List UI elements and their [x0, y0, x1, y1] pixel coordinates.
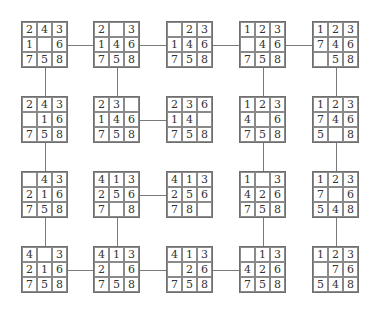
- tile: 5: [182, 277, 197, 292]
- tile: 1: [37, 262, 52, 277]
- tile: 8: [124, 127, 139, 142]
- tile: 3: [182, 97, 197, 112]
- tile: 8: [270, 202, 285, 217]
- blank-tile: [37, 247, 52, 262]
- tile: 7: [22, 277, 37, 292]
- tile: 5: [182, 52, 197, 67]
- tile: 8: [52, 52, 67, 67]
- tile: 6: [52, 112, 67, 127]
- tile: 3: [270, 97, 285, 112]
- tile: 2: [22, 262, 37, 277]
- edge-connector: [140, 45, 166, 46]
- tile: 6: [270, 37, 285, 52]
- tile: 1: [22, 37, 37, 52]
- tile: 4: [240, 112, 255, 127]
- tile: 8: [343, 277, 358, 292]
- tile: 7: [167, 52, 182, 67]
- tile: 7: [313, 112, 328, 127]
- tile: 1: [313, 172, 328, 187]
- tile: 6: [197, 187, 212, 202]
- tile: 2: [94, 262, 109, 277]
- tile: 3: [343, 22, 358, 37]
- puzzle-state-r3c3: 41325678: [166, 171, 213, 218]
- tile: 7: [240, 127, 255, 142]
- tile: 7: [94, 127, 109, 142]
- tile: 8: [270, 277, 285, 292]
- blank-tile: [328, 127, 343, 142]
- edge-connector: [286, 45, 312, 46]
- blank-tile: [197, 202, 212, 217]
- tile: 6: [270, 262, 285, 277]
- tile: 3: [270, 172, 285, 187]
- tile: 5: [255, 52, 270, 67]
- tile: 3: [197, 22, 212, 37]
- tile: 6: [197, 37, 212, 52]
- tile: 2: [328, 22, 343, 37]
- blank-tile: [109, 262, 124, 277]
- tile: 5: [313, 202, 328, 217]
- tile: 8: [52, 202, 67, 217]
- edge-connector: [68, 45, 93, 46]
- puzzle-state-r2c3: 23614758: [166, 96, 213, 143]
- edge-connector: [263, 68, 264, 96]
- tile: 2: [182, 22, 197, 37]
- tile: 6: [124, 37, 139, 52]
- tile: 6: [124, 187, 139, 202]
- puzzle-state-r3c2: 41325678: [93, 171, 140, 218]
- tile: 3: [124, 172, 139, 187]
- puzzle-state-r2c1: 24316758: [21, 96, 68, 143]
- tile: 3: [343, 97, 358, 112]
- puzzle-state-r1c5: 12374658: [312, 21, 359, 68]
- tile: 5: [313, 127, 328, 142]
- tile: 8: [182, 202, 197, 217]
- tile: 5: [109, 187, 124, 202]
- tile: 7: [94, 277, 109, 292]
- tile: 7: [94, 52, 109, 67]
- puzzle-state-r1c4: 12346758: [239, 21, 286, 68]
- tile: 3: [270, 247, 285, 262]
- tile: 4: [109, 37, 124, 52]
- tile: 1: [109, 172, 124, 187]
- tile: 3: [270, 22, 285, 37]
- tile: 7: [240, 277, 255, 292]
- tile: 2: [255, 262, 270, 277]
- tile: 6: [52, 262, 67, 277]
- puzzle-state-r3c5: 12376548: [312, 171, 359, 218]
- tile: 8: [270, 127, 285, 142]
- edge-connector: [68, 270, 93, 271]
- tile: 8: [197, 52, 212, 67]
- tile: 3: [52, 247, 67, 262]
- tile: 4: [328, 112, 343, 127]
- tile: 2: [255, 97, 270, 112]
- puzzle-state-r4c3: 41326758: [166, 246, 213, 293]
- tile: 6: [124, 112, 139, 127]
- edge-connector: [263, 218, 264, 246]
- puzzle-state-r4c5: 12376548: [312, 246, 359, 293]
- tile: 8: [197, 277, 212, 292]
- edge-connector: [45, 68, 46, 96]
- tile: 2: [255, 187, 270, 202]
- tile: 1: [240, 22, 255, 37]
- blank-tile: [255, 172, 270, 187]
- blank-tile: [167, 22, 182, 37]
- tile: 6: [124, 262, 139, 277]
- tile: 6: [197, 262, 212, 277]
- tile: 1: [37, 187, 52, 202]
- tile: 7: [167, 127, 182, 142]
- tile: 4: [94, 247, 109, 262]
- tile: 3: [197, 172, 212, 187]
- tile: 1: [255, 247, 270, 262]
- blank-tile: [240, 247, 255, 262]
- blank-tile: [22, 112, 37, 127]
- edge-connector: [117, 68, 118, 96]
- tile: 3: [197, 247, 212, 262]
- tile: 2: [328, 247, 343, 262]
- tile: 8: [52, 127, 67, 142]
- tile: 7: [167, 277, 182, 292]
- tile: 4: [37, 172, 52, 187]
- tile: 5: [37, 52, 52, 67]
- blank-tile: [37, 37, 52, 52]
- blank-tile: [313, 52, 328, 67]
- tile: 1: [109, 247, 124, 262]
- tile: 7: [313, 37, 328, 52]
